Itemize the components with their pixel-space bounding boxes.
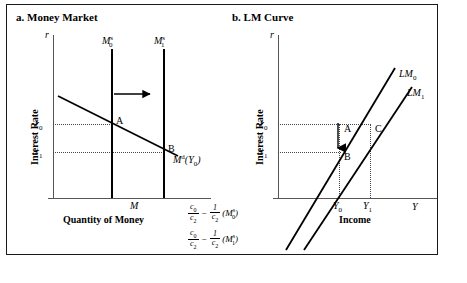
panel-b-x-axis-symbol: Y bbox=[412, 201, 418, 212]
panel-a-title: a. Money Market bbox=[16, 11, 98, 23]
panel-a-x-axis-title: Quantity of Money bbox=[63, 214, 144, 225]
intercept-1-fraction-1: c0 c2 bbox=[188, 229, 199, 249]
intercept-1-f1-num: c0 bbox=[188, 229, 199, 239]
intercept-1-term: (Ms1) bbox=[222, 233, 238, 246]
panel-a-x-axis bbox=[48, 198, 211, 199]
money-supply-label-0: Ms0 bbox=[102, 34, 113, 49]
panel-a-y-tick-r1-sub: 1 bbox=[39, 152, 43, 160]
panel-b-y-tick-r0-sub: 0 bbox=[264, 124, 268, 132]
i1f2ds: 2 bbox=[215, 243, 218, 249]
intercept-0-fraction-1: c0 c2 bbox=[188, 203, 199, 223]
panel-a-x-tick-M: M bbox=[130, 200, 138, 211]
intercept-0-f2-num: 1 bbox=[211, 204, 219, 212]
panel-a-guide-r0 bbox=[53, 124, 112, 125]
panel-b-point-B: B bbox=[344, 151, 351, 162]
panel-b-guide-r0 bbox=[278, 124, 371, 125]
ms1-sub: 1 bbox=[161, 41, 165, 49]
intercept-0-f2-den: c2 bbox=[210, 212, 221, 223]
panel-b-guide-Y1 bbox=[370, 124, 371, 198]
panel-b-x-axis bbox=[273, 198, 437, 199]
panel-a-point-B: B bbox=[168, 143, 175, 154]
panel-a-y-tick-r1: r1 bbox=[35, 146, 42, 160]
lm0-base: LM bbox=[399, 68, 413, 79]
panel-a-y-tick-r0: r0 bbox=[35, 118, 42, 132]
intercept-0-operator: − bbox=[201, 208, 208, 218]
panel-b-point-C: C bbox=[375, 123, 382, 134]
intercept-0-term: (Ms0) bbox=[222, 207, 238, 220]
i0tsup: s bbox=[233, 207, 235, 213]
i1tsup: s bbox=[233, 233, 235, 239]
lm1-base: LM bbox=[407, 87, 421, 98]
ms0-sub: 0 bbox=[109, 41, 113, 49]
i1f1ns: 0 bbox=[194, 233, 197, 239]
intercept-1-fraction-2: 1 c2 bbox=[210, 230, 221, 249]
panel-b-y-axis-symbol: r bbox=[270, 29, 274, 40]
money-supply-label-1: Ms1 bbox=[154, 34, 165, 49]
panel-b-y-tick-r0: r0 bbox=[260, 118, 267, 132]
panel-b-x-tick-Y1-sub: 1 bbox=[369, 206, 373, 214]
lm-intercept-0: c0 c2 − 1 c2 (Ms0) bbox=[188, 203, 238, 223]
md-paren-close: ) bbox=[197, 154, 200, 165]
intercept-0-f1-num: c0 bbox=[188, 203, 199, 213]
panel-a-y-axis-symbol: r bbox=[45, 29, 49, 40]
panel-b-y-tick-r1-sub: 1 bbox=[264, 152, 268, 160]
panel-b-title: b. LM Curve bbox=[232, 11, 293, 23]
panel-a-guide-r1 bbox=[53, 152, 164, 153]
i1tsub: 1 bbox=[232, 240, 235, 246]
i0f1ds: 2 bbox=[194, 217, 197, 223]
i0tsub: 0 bbox=[232, 214, 235, 220]
lm1-sub: 1 bbox=[421, 93, 425, 101]
money-supply-curve-0 bbox=[111, 49, 113, 198]
panel-b-guide-Y0 bbox=[339, 124, 340, 198]
intercept-1-operator: − bbox=[201, 234, 208, 244]
i0f2ds: 2 bbox=[215, 217, 218, 223]
lm-intercept-1: c0 c2 − 1 c2 (Ms1) bbox=[188, 229, 238, 249]
lm0-sub: 0 bbox=[413, 74, 417, 82]
panel-b-guide-r1 bbox=[278, 152, 341, 153]
panel-b-y-tick-r1: r1 bbox=[260, 146, 267, 160]
panel-b-x-axis-title: Income bbox=[339, 214, 371, 225]
panel-b-x-tick-Y0: Y0 bbox=[333, 200, 342, 214]
panel-a-y-tick-r0-sub: 0 bbox=[39, 124, 43, 132]
money-demand-label: Md(Y0) bbox=[173, 153, 201, 168]
panel-a-y-axis bbox=[53, 35, 54, 198]
figure-frame: a. Money Market r Interest Rate Quantity… bbox=[6, 4, 438, 255]
panel-b-point-A: A bbox=[344, 123, 351, 134]
intercept-0-fraction-2: 1 c2 bbox=[210, 204, 221, 223]
i0f1ns: 0 bbox=[194, 207, 197, 213]
panel-b-x-tick-Y0-sub: 0 bbox=[339, 206, 343, 214]
lm-curve-label-1: LM1 bbox=[407, 87, 424, 101]
panel-b-y-axis bbox=[278, 35, 279, 198]
i1f1ds: 2 bbox=[194, 243, 197, 249]
intercept-1-f1-den: c2 bbox=[188, 239, 199, 250]
panel-a-point-A: A bbox=[116, 115, 123, 126]
intercept-1-f2-den: c2 bbox=[210, 238, 221, 249]
money-supply-curve-1 bbox=[163, 49, 165, 198]
lm-curve-label-0: LM0 bbox=[399, 68, 416, 82]
intercept-1-f2-num: 1 bbox=[211, 230, 219, 238]
intercept-0-f1-den: c2 bbox=[188, 213, 199, 224]
panel-b-x-tick-Y1: Y1 bbox=[363, 200, 372, 214]
panel-a-x-tick-label: M bbox=[130, 200, 138, 211]
